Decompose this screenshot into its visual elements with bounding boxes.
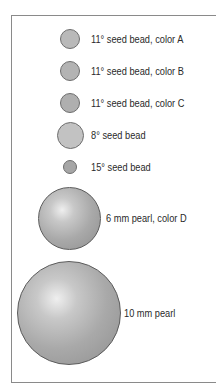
legend-label-10mm-pearl: 10 mm pearl	[124, 307, 175, 319]
pearl-10mm-icon	[17, 261, 121, 365]
legend-label-6mm-pearl: 6 mm pearl, color D	[106, 212, 187, 224]
seed-bead-11-b-icon	[60, 61, 80, 81]
seed-bead-11-c-icon	[60, 93, 80, 113]
legend-label-11-a: 11° seed bead, color A	[91, 33, 183, 45]
legend-label-11-b: 11° seed bead, color B	[91, 65, 184, 77]
legend-label-15: 15° seed bead	[91, 161, 151, 173]
legend-label-8: 8° seed bead	[91, 129, 146, 141]
seed-bead-15-icon	[63, 160, 77, 174]
seed-bead-11-a-icon	[60, 29, 80, 49]
seed-bead-8-icon	[57, 122, 84, 149]
legend-label-11-c: 11° seed bead, color C	[91, 97, 184, 109]
pearl-6mm-icon	[38, 187, 101, 250]
